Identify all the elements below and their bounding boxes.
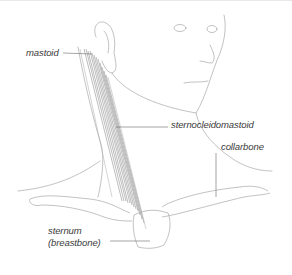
- collarbones: [30, 186, 270, 221]
- sternocleidomastoid-muscle: [80, 49, 146, 229]
- label-sternocleidomastoid: sternocleidomastoid: [171, 119, 254, 131]
- left-eye: [174, 25, 186, 32]
- label-collarbone: collarbone: [221, 141, 264, 153]
- mastoid-leader: [63, 53, 92, 54]
- label-sternum-line1: sternum: [48, 225, 101, 237]
- jaw-outline: [112, 15, 225, 113]
- label-sternum-line2: (breastbone): [48, 237, 101, 249]
- right-eye: [207, 26, 217, 33]
- left-shoulder-outline: [18, 161, 100, 191]
- sternum-bone: [133, 210, 170, 248]
- label-sternum: sternum (breastbone): [48, 225, 101, 249]
- label-mastoid: mastoid: [26, 47, 59, 59]
- left-collarbone: [30, 196, 132, 221]
- anatomy-figure: mastoid sternocleidomastoid collarbone s…: [0, 0, 292, 275]
- nose: [200, 45, 214, 63]
- neck-illustration: [0, 1, 292, 275]
- mouth: [184, 81, 208, 83]
